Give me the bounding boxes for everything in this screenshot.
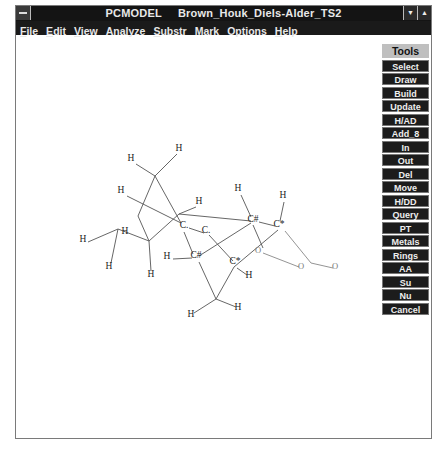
document-name: Brown_Houk_Diels-Alder_TS2 — [178, 7, 342, 19]
atom-h4[interactable]: H — [196, 196, 203, 206]
bond[interactable] — [285, 231, 311, 263]
bond[interactable] — [88, 229, 118, 242]
maximize-icon: ▲ — [421, 9, 428, 16]
bond[interactable] — [179, 207, 196, 214]
bond[interactable] — [111, 229, 118, 263]
atom-c4[interactable]: C* — [229, 256, 240, 266]
bond[interactable] — [311, 263, 333, 268]
tool-del-button[interactable]: Del — [382, 168, 429, 180]
tool-rings-button[interactable]: Rings — [382, 249, 429, 261]
window-title: PCMODEL Brown_Houk_Diels-Alder_TS2 — [16, 7, 431, 19]
tool-h-dd-button[interactable]: H/DD — [382, 195, 429, 207]
bond[interactable] — [263, 253, 299, 267]
tool-su-button[interactable]: Su — [382, 276, 429, 288]
atom-c3[interactable]: C# — [190, 250, 201, 260]
tool-select-button[interactable]: Select — [382, 60, 429, 72]
bond[interactable] — [173, 258, 192, 259]
atom-c5[interactable]: C# — [247, 214, 258, 224]
molecule-drawing[interactable]: C.C.C#C*C#C*OOOHHHHHHHHHHHHHH — [16, 35, 433, 440]
tool-cancel-button[interactable]: Cancel — [382, 303, 429, 315]
atom-c1[interactable]: C. — [180, 220, 189, 230]
bond[interactable] — [138, 176, 155, 216]
tool-metals-button[interactable]: Metals — [382, 235, 429, 247]
atom-c2[interactable]: C. — [202, 225, 211, 235]
bond[interactable] — [194, 299, 216, 313]
maximize-button[interactable]: ▲ — [417, 6, 431, 20]
atom-h3[interactable]: H — [118, 185, 125, 195]
atom-h10[interactable]: H — [235, 183, 242, 193]
minimize-button[interactable]: ▼ — [403, 6, 417, 20]
bond[interactable] — [149, 241, 151, 271]
atom-h8[interactable]: H — [148, 269, 155, 279]
tool-nu-button[interactable]: Nu — [382, 289, 429, 301]
atom-h1[interactable]: H — [128, 153, 135, 163]
tool-aa-button[interactable]: AA — [382, 262, 429, 274]
bond[interactable] — [155, 154, 177, 176]
atom-h12[interactable]: H — [246, 270, 253, 280]
atom-o1[interactable]: O — [255, 245, 261, 255]
tool-out-button[interactable]: Out — [382, 154, 429, 166]
tools-panel: Tools SelectDrawBuildUpdateH/ADAdd_8InOu… — [382, 44, 429, 315]
atom-h13[interactable]: H — [188, 309, 195, 319]
tool-build-button[interactable]: Build — [382, 87, 429, 99]
title-bar[interactable]: PCMODEL Brown_Houk_Diels-Alder_TS2 ▼ ▲ — [16, 6, 431, 22]
bond[interactable] — [136, 164, 155, 176]
bond[interactable] — [216, 299, 236, 307]
tool-query-button[interactable]: Query — [382, 208, 429, 220]
atom-h7[interactable]: H — [106, 261, 113, 271]
atom-h6[interactable]: H — [122, 226, 129, 236]
tool-in-button[interactable]: In — [382, 141, 429, 153]
tools-header: Tools — [382, 44, 429, 58]
tool-add-8-button[interactable]: Add_8 — [382, 127, 429, 139]
atom-c6[interactable]: C* — [273, 219, 284, 229]
tool-draw-button[interactable]: Draw — [382, 73, 429, 85]
bond[interactable] — [216, 267, 234, 299]
pcmodel-window: PCMODEL Brown_Houk_Diels-Alder_TS2 ▼ ▲ F… — [15, 5, 432, 439]
bond[interactable] — [179, 214, 251, 221]
menu-bar: FileEditViewAnalyzeSubstrMarkOptionsHelp — [16, 21, 431, 35]
bond[interactable] — [199, 262, 216, 299]
atom-o3[interactable]: O — [332, 261, 338, 271]
tool-move-button[interactable]: Move — [382, 181, 429, 193]
atom-h5[interactable]: H — [80, 234, 87, 244]
app-name: PCMODEL — [105, 7, 161, 19]
tool-update-button[interactable]: Update — [382, 100, 429, 112]
tool-pt-button[interactable]: PT — [382, 222, 429, 234]
bond[interactable] — [149, 214, 179, 241]
tool-h-ad-button[interactable]: H/AD — [382, 114, 429, 126]
atom-h9[interactable]: H — [164, 251, 171, 261]
atom-h11[interactable]: H — [280, 190, 287, 200]
molecule-canvas[interactable]: C.C.C#C*C#C*OOOHHHHHHHHHHHHHH — [16, 35, 431, 438]
atom-o2[interactable]: O — [298, 261, 304, 271]
atom-h2[interactable]: H — [176, 143, 183, 153]
atom-h14[interactable]: H — [235, 302, 242, 312]
minimize-icon: ▼ — [407, 9, 414, 16]
